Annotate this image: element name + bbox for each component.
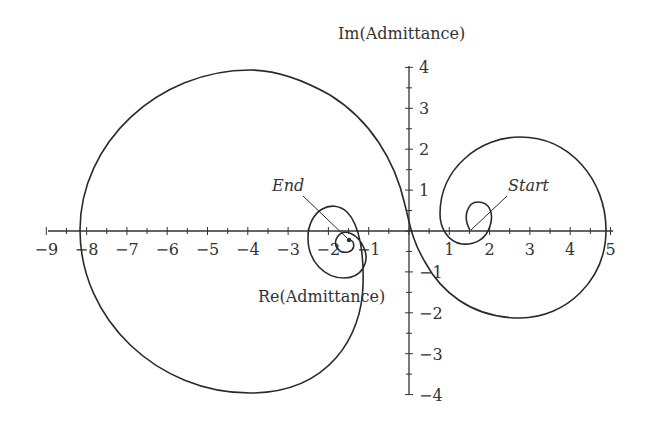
x-tick-label: −9	[35, 240, 59, 259]
y-tick-label: −3	[419, 345, 443, 364]
x-tick-label: −8	[75, 240, 99, 259]
x-tick-label: −7	[115, 240, 139, 259]
y-tick-label: −4	[419, 386, 443, 405]
y-tick-label: 1	[419, 181, 429, 200]
x-tick-label: −4	[236, 240, 260, 259]
y-tick-label: 2	[419, 140, 429, 159]
x-tick-label: −5	[196, 240, 220, 259]
x-tick-label: −2	[317, 240, 341, 259]
x-tick-labels: −9−8−7−6−5−4−3−2−112345	[35, 240, 616, 259]
y-tick-label: 3	[419, 99, 429, 118]
x-tick-label: 5	[605, 240, 615, 259]
end-label: End	[271, 176, 304, 195]
start-label: Start	[508, 176, 550, 195]
y-tick-label: −2	[419, 304, 443, 323]
end-pointer	[303, 196, 347, 238]
x-axis-title: Re(Admittance)	[258, 287, 385, 306]
start-pointer	[471, 196, 507, 230]
end-point-marker	[347, 238, 351, 242]
x-tick-label: 2	[485, 240, 495, 259]
y-axis-title: Im(Admittance)	[338, 24, 465, 43]
x-tick-label: 4	[565, 240, 575, 259]
x-tick-label: −6	[155, 240, 179, 259]
x-tick-label: 1	[444, 240, 454, 259]
x-tick-label: 3	[525, 240, 535, 259]
y-tick-label: 4	[419, 58, 429, 77]
admittance-chart: −9−8−7−6−5−4−3−2−112345 4321−1−2−3−4 Im(…	[0, 0, 649, 424]
x-tick-label: −3	[276, 240, 300, 259]
